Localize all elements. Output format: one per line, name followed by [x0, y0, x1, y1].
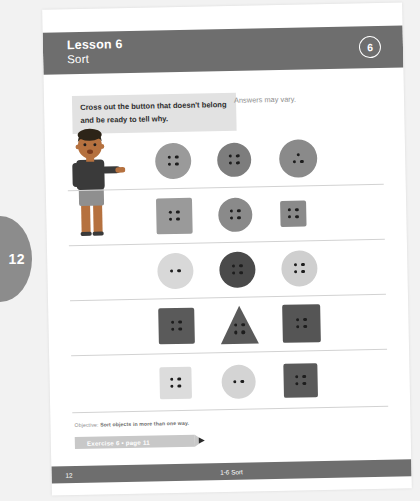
- button-holes: [170, 377, 181, 388]
- button-hole: [303, 318, 306, 321]
- button-hole: [288, 215, 291, 218]
- button-hole: [293, 160, 296, 163]
- worksheet-page: Lesson 6 Sort 6 Cross out the button tha…: [42, 2, 412, 495]
- button-item[interactable]: [155, 142, 192, 179]
- square-button-shape: [159, 366, 192, 399]
- button-holes: [293, 153, 304, 164]
- page-tab-number: 12: [8, 251, 25, 267]
- button-hole: [170, 269, 173, 272]
- button-holes: [169, 210, 180, 221]
- circle-button-shape: [217, 142, 252, 177]
- button-hole: [234, 323, 237, 326]
- button-hole: [176, 217, 179, 220]
- exercise-row: [71, 351, 388, 412]
- button-hole: [304, 325, 307, 328]
- button-hole: [241, 379, 244, 382]
- square-button-shape: [282, 304, 321, 343]
- footer-page-number: 12: [65, 471, 72, 478]
- page-footer: 12 1-6 Sort: [51, 459, 411, 483]
- button-item[interactable]: [217, 142, 252, 177]
- objective-line: Objective: Sort objects in more than one…: [74, 420, 189, 428]
- exercise-area: [42, 2, 402, 9]
- button-item[interactable]: [218, 197, 253, 232]
- button-hole: [288, 208, 291, 211]
- button-hole: [171, 320, 174, 323]
- button-hole: [294, 263, 297, 266]
- button-holes: [234, 323, 245, 334]
- button-holes: [171, 320, 182, 331]
- button-item[interactable]: [158, 307, 195, 344]
- button-item[interactable]: [219, 251, 256, 288]
- button-hole: [239, 271, 242, 274]
- button-item[interactable]: [279, 139, 318, 178]
- button-holes: [233, 379, 244, 383]
- button-hole: [241, 323, 244, 326]
- button-item[interactable]: [157, 252, 194, 289]
- button-holes: [230, 209, 241, 220]
- button-hole: [170, 377, 173, 380]
- button-holes: [294, 263, 305, 274]
- button-item[interactable]: [220, 305, 259, 344]
- button-hole: [236, 154, 239, 157]
- button-hole: [233, 380, 236, 383]
- button-hole: [230, 209, 233, 212]
- button-hole: [179, 327, 182, 330]
- circle-button-shape: [279, 139, 318, 178]
- button-holes: [170, 269, 181, 273]
- button-item[interactable]: [282, 304, 321, 343]
- button-hole: [178, 320, 181, 323]
- button-hole: [232, 271, 235, 274]
- exercise-banner[interactable]: Exercise 6 • page 11: [75, 435, 195, 449]
- button-hole: [237, 209, 240, 212]
- button-holes: [295, 375, 306, 386]
- button-item[interactable]: [156, 197, 193, 234]
- button-hole: [229, 161, 232, 164]
- button-holes: [296, 318, 307, 329]
- button-item[interactable]: [281, 250, 318, 287]
- button-item[interactable]: [280, 200, 307, 227]
- button-hole: [301, 270, 304, 273]
- button-hole: [303, 375, 306, 378]
- button-hole: [171, 328, 174, 331]
- objective-label: Objective:: [74, 422, 98, 428]
- objective-text: Sort objects in more than one way.: [100, 420, 189, 428]
- page-tab: 12: [0, 216, 32, 302]
- button-item[interactable]: [283, 363, 318, 398]
- button-holes: [168, 155, 179, 166]
- footer-lesson-label: 1-6 Sort: [220, 468, 243, 475]
- square-button-shape: [280, 200, 307, 227]
- button-holes: [232, 264, 243, 275]
- exercise-row: [69, 239, 386, 300]
- button-hole: [242, 331, 245, 334]
- button-hole: [295, 382, 298, 385]
- button-hole: [236, 161, 239, 164]
- button-hole: [175, 155, 178, 158]
- button-item[interactable]: [159, 366, 192, 399]
- button-item[interactable]: [221, 364, 256, 399]
- button-hole: [232, 264, 235, 267]
- lesson-header: Lesson 6 Sort 6: [43, 25, 404, 74]
- answers-may-vary-note: Answers may vary.: [234, 95, 296, 105]
- banner-arrow-tip-icon: [199, 437, 205, 443]
- circle-button-shape: [218, 197, 253, 232]
- button-hole: [170, 385, 173, 388]
- button-hole: [295, 215, 298, 218]
- button-hole: [239, 264, 242, 267]
- button-hole: [234, 331, 237, 334]
- button-hole: [175, 162, 178, 165]
- button-hole: [169, 218, 172, 221]
- square-button-shape: [158, 307, 195, 344]
- exercise-row: [68, 184, 385, 245]
- button-hole: [301, 263, 304, 266]
- button-hole: [168, 163, 171, 166]
- circle-button-shape: [155, 142, 192, 179]
- exercise-banner-label: Exercise 6 • page 11: [75, 438, 150, 447]
- button-hole: [178, 377, 181, 380]
- button-holes: [288, 208, 299, 219]
- exercise-row: [70, 294, 387, 355]
- button-hole: [295, 375, 298, 378]
- lesson-number-badge: 6: [359, 36, 381, 58]
- button-hole: [237, 216, 240, 219]
- square-button-shape: [156, 197, 193, 234]
- button-hole: [296, 153, 299, 156]
